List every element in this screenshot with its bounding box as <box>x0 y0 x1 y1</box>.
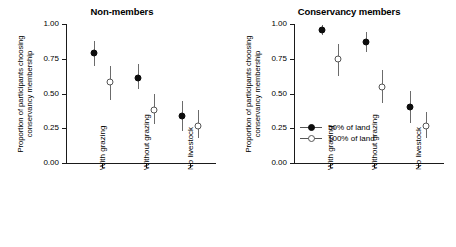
y-tick-1.00-right <box>290 24 294 25</box>
y-tick-label-0.75-left: 0.75 <box>43 55 59 63</box>
plot-area-left: 1.00 0.75 0.50 0.25 0.00 With grazing Wi… <box>66 24 216 164</box>
datapoint-open-g3-left <box>195 122 202 129</box>
y-tick-0.25-left <box>62 128 66 129</box>
y-tick-label-0.25-left: 0.25 <box>43 124 59 132</box>
panel-title-left: Non-members <box>0 6 228 17</box>
y-tick-label-1.00-left: 1.00 <box>43 20 59 28</box>
y-tick-label-0.25-right: 0.25 <box>271 124 287 132</box>
datapoint-filled-g2-right <box>363 39 370 46</box>
y-tick-0.75-left <box>62 59 66 60</box>
panel-conservancy-members: Conservancy members Proportion of partic… <box>228 0 456 247</box>
y-tick-1.00-left <box>62 24 66 25</box>
y-tick-label-1.00-right: 1.00 <box>271 20 287 28</box>
y-tick-label-0.75-right: 0.75 <box>271 55 287 63</box>
y-tick-0.50-left <box>62 94 66 95</box>
y-tick-label-0.50-right: 0.50 <box>271 90 287 98</box>
y-tick-label-0.50-left: 0.50 <box>43 90 59 98</box>
datapoint-open-g3-right <box>423 122 430 129</box>
y-tick-0.50-right <box>290 94 294 95</box>
datapoint-open-g2-left <box>151 107 158 114</box>
y-tick-0.00-left <box>62 163 66 164</box>
datapoint-open-g1-left <box>107 79 114 86</box>
datapoint-filled-g3-right <box>407 104 414 111</box>
datapoint-filled-g3-left <box>179 112 186 119</box>
y-axis-title-line2: conservancy membership <box>25 36 35 153</box>
datapoint-open-g2-right <box>379 83 386 90</box>
figure-root: Non-members Proportion of participants c… <box>0 0 456 247</box>
legend-filled-circle-icon <box>308 124 315 131</box>
y-tick-0.00-right <box>290 163 294 164</box>
panel-non-members: Non-members Proportion of participants c… <box>0 0 228 247</box>
plot-area-right: 1.00 0.75 0.50 0.25 0.00 With grazing Wi… <box>294 24 444 164</box>
x-tick-label-no-livestock-right: No livestock <box>415 127 423 170</box>
x-tick-label-without-grazing-left: Without grazing <box>143 114 151 170</box>
y-axis-title-right: Proportion of participants choosing cons… <box>242 24 264 164</box>
legend-label-100-percent: 100% of land <box>328 133 375 144</box>
y-tick-0.75-right <box>290 59 294 60</box>
x-tick-label-no-livestock-left: No livestock <box>187 127 195 170</box>
datapoint-filled-g1-right <box>319 26 326 33</box>
x-tick-label-with-grazing-left: With grazing <box>99 126 107 170</box>
y-axis-title-line1: Proportion of participants choosing <box>16 36 26 153</box>
y-axis-title-line2-right: conservancy membership <box>253 36 263 153</box>
y-tick-0.25-right <box>290 128 294 129</box>
legend-open-circle-icon <box>308 135 315 142</box>
y-axis-title-line1-right: Proportion of participants choosing <box>244 36 254 153</box>
panel-title-right: Conservancy members <box>228 6 456 17</box>
y-axis-line-left <box>66 24 67 164</box>
y-tick-label-0.00-left: 0.00 <box>43 159 59 167</box>
y-axis-title-left: Proportion of participants choosing cons… <box>14 24 36 164</box>
y-tick-label-0.00-right: 0.00 <box>271 159 287 167</box>
datapoint-filled-g1-left <box>91 50 98 57</box>
y-axis-line-right <box>294 24 295 164</box>
datapoint-open-g1-right <box>335 55 342 62</box>
legend-label-50-percent: 50% of land <box>328 122 370 133</box>
datapoint-filled-g2-left <box>135 75 142 82</box>
